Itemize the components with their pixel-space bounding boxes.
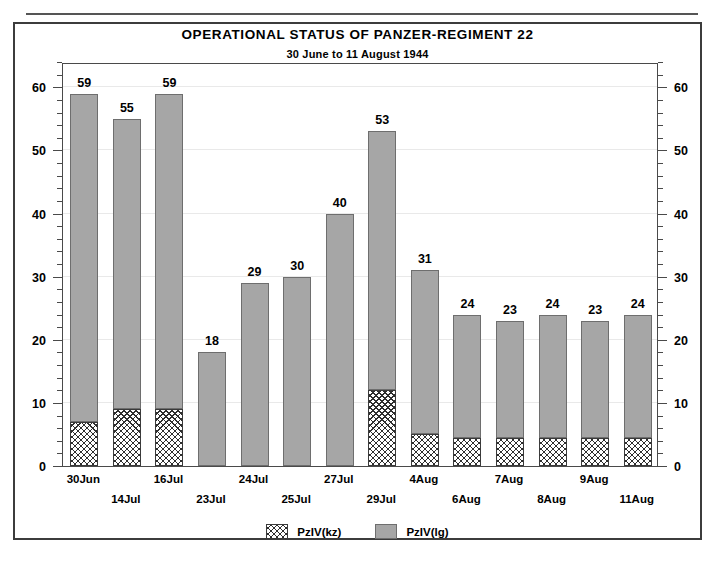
bar-segment-pziv-lg[interactable] — [581, 321, 609, 438]
gray-swatch-icon — [375, 524, 397, 539]
y-axis-tick-left — [57, 315, 62, 316]
y-axis-tick-right — [658, 302, 663, 303]
y-axis-tick-left — [53, 340, 62, 341]
y-axis-tick-left — [57, 289, 62, 290]
y-axis-label-right: 10 — [674, 398, 714, 410]
y-axis-tick-left — [57, 428, 62, 429]
bar-group[interactable]: 59 — [155, 94, 183, 466]
bar-segment-pziv-kz[interactable] — [496, 438, 524, 466]
y-axis-tick-right — [658, 365, 663, 366]
bar-value-label: 40 — [314, 197, 366, 210]
y-axis-tick-right — [658, 214, 667, 215]
y-axis-tick-left — [53, 277, 62, 278]
y-axis-tick-right — [658, 251, 663, 252]
y-axis-label-left: 20 — [6, 335, 46, 347]
legend-item-pziv-kz: PzIV(kz) — [266, 524, 341, 539]
bar-segment-pziv-lg[interactable] — [411, 270, 439, 434]
bar-value-label: 59 — [143, 77, 195, 90]
y-axis-tick-left — [57, 138, 62, 139]
y-axis-tick-left — [57, 163, 62, 164]
bar-segment-pziv-kz[interactable] — [581, 438, 609, 466]
plot-area: 5955591829304053312423242324 — [62, 63, 658, 467]
x-axis-label: 7Aug — [479, 473, 539, 486]
legend-item-pziv-lg: PzIV(lg) — [375, 524, 448, 539]
bar-segment-pziv-lg[interactable] — [155, 94, 183, 410]
x-axis-label: 27Jul — [309, 473, 369, 486]
y-axis-tick-right — [658, 390, 663, 391]
bar-value-label: 18 — [186, 335, 238, 348]
x-axis-label: 8Aug — [522, 493, 582, 506]
bar-segment-pziv-kz[interactable] — [411, 434, 439, 466]
bar-segment-pziv-lg[interactable] — [496, 321, 524, 438]
y-axis-tick-left — [57, 264, 62, 265]
bar-segment-pziv-lg[interactable] — [241, 283, 269, 466]
bar-group[interactable]: 18 — [198, 352, 226, 466]
y-axis-tick-right — [658, 378, 663, 379]
y-axis-tick-right — [658, 453, 663, 454]
chart-title: OPERATIONAL STATUS OF PANZER-REGIMENT 22 — [13, 26, 702, 44]
bar-segment-pziv-lg[interactable] — [624, 315, 652, 438]
y-axis-tick-left — [57, 125, 62, 126]
bar-segment-pziv-lg[interactable] — [453, 315, 481, 438]
y-axis-label-left: 50 — [6, 145, 46, 157]
y-axis-tick-left — [57, 378, 62, 379]
y-axis-tick-right — [658, 150, 667, 151]
y-axis-tick-right — [658, 138, 663, 139]
y-axis-tick-left — [57, 453, 62, 454]
chart-subtitle: 30 June to 11 August 1944 — [13, 46, 702, 62]
y-axis-tick-right — [658, 428, 663, 429]
bar-group[interactable]: 31 — [411, 270, 439, 466]
bar-segment-pziv-kz[interactable] — [368, 390, 396, 466]
bar-group[interactable]: 30 — [283, 277, 311, 466]
bar-group[interactable]: 29 — [241, 283, 269, 466]
bar-group[interactable]: 23 — [581, 321, 609, 466]
bar-segment-pziv-lg[interactable] — [326, 214, 354, 467]
bar-segment-pziv-lg[interactable] — [113, 119, 141, 409]
y-axis-tick-left — [57, 188, 62, 189]
bar-segment-pziv-kz[interactable] — [539, 438, 567, 466]
bar-segment-pziv-kz[interactable] — [453, 438, 481, 466]
plot-wrapper: 5955591829304053312423242324 00101020203… — [62, 63, 658, 467]
y-axis-tick-right — [658, 239, 663, 240]
y-axis-label-right: 0 — [674, 461, 714, 473]
x-axis-label: 9Aug — [564, 473, 624, 486]
bar-segment-pziv-kz[interactable] — [155, 409, 183, 466]
bar-segment-pziv-lg[interactable] — [70, 94, 98, 422]
bar-group[interactable]: 55 — [113, 119, 141, 466]
x-axis-label: 25Jul — [266, 493, 326, 506]
bar-segment-pziv-lg[interactable] — [368, 131, 396, 390]
x-axis-label: 29Jul — [351, 493, 411, 506]
y-axis-tick-right — [658, 466, 667, 467]
bar-group[interactable]: 59 — [70, 94, 98, 466]
bar-segment-pziv-lg[interactable] — [539, 315, 567, 438]
y-axis-label-left: 10 — [6, 398, 46, 410]
x-axis-labels: 30Jun14Jul16Jul23Jul24Jul25Jul27Jul29Jul… — [62, 467, 658, 515]
y-axis-label-right: 20 — [674, 335, 714, 347]
x-axis-label: 23Jul — [181, 493, 241, 506]
bar-group[interactable]: 24 — [539, 315, 567, 467]
x-axis-label: 11Aug — [607, 493, 667, 506]
bar-segment-pziv-kz[interactable] — [624, 438, 652, 466]
bar-segment-pziv-kz[interactable] — [70, 422, 98, 466]
bar-group[interactable]: 24 — [453, 315, 481, 467]
y-axis-tick-right — [658, 277, 667, 278]
bar-group[interactable]: 24 — [624, 315, 652, 467]
y-axis-tick-right — [658, 416, 663, 417]
y-axis-tick-right — [658, 62, 663, 63]
bar-segment-pziv-lg[interactable] — [283, 277, 311, 466]
y-axis-tick-left — [57, 176, 62, 177]
bar-segment-pziv-kz[interactable] — [113, 409, 141, 466]
y-axis-tick-left — [57, 327, 62, 328]
y-axis-label-left: 40 — [6, 209, 46, 221]
y-axis-label-left: 30 — [6, 272, 46, 284]
y-axis-tick-right — [658, 226, 663, 227]
bars-container: 5955591829304053312423242324 — [63, 64, 657, 466]
bar-group[interactable]: 40 — [326, 214, 354, 467]
bar-segment-pziv-lg[interactable] — [198, 352, 226, 466]
y-axis-tick-right — [658, 352, 663, 353]
bar-value-label: 31 — [399, 253, 451, 266]
chart-page: OPERATIONAL STATUS OF PANZER-REGIMENT 22… — [0, 0, 718, 567]
bar-group[interactable]: 53 — [368, 131, 396, 466]
y-axis-tick-left — [53, 466, 62, 467]
bar-group[interactable]: 23 — [496, 321, 524, 466]
